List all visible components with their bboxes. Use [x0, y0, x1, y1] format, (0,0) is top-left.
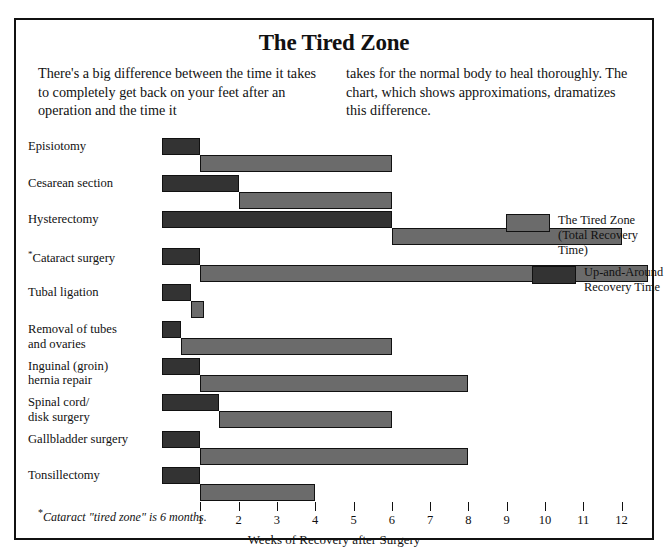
legend-label-line2: Recovery Time [584, 280, 660, 294]
row-label-line1: Cesarean section [28, 176, 113, 190]
legend-label-line1: Up-and-Around [584, 265, 663, 279]
axis-tick-label: 10 [533, 513, 557, 528]
row-label-line1: Gallbladder surgery [28, 432, 128, 446]
axis-tick-label: 9 [495, 513, 519, 528]
axis-tick [430, 502, 431, 511]
row-label: Hysterectomy [28, 212, 160, 227]
row-label: *Cataract surgery [28, 249, 160, 266]
axis-tick [507, 502, 508, 511]
axis-tick [545, 502, 546, 511]
axis-tick-label: 12 [610, 513, 634, 528]
intro-column-left: There's a big difference between the tim… [38, 64, 330, 120]
bar-up-and-around [162, 211, 392, 228]
axis-tick-label: 5 [342, 513, 366, 528]
row-label: Episiotomy [28, 139, 160, 154]
bar-tired-zone [200, 155, 392, 172]
bar-chart-plot: EpisiotomyCesarean sectionHysterectomy*C… [16, 130, 652, 500]
axis-tick [392, 502, 393, 511]
legend-label-line1: The Tired Zone [558, 213, 635, 227]
axis-tick [622, 502, 623, 511]
axis-tick-label: 11 [571, 513, 595, 528]
bar-up-and-around [162, 467, 200, 484]
bar-up-and-around [162, 358, 200, 375]
row-label: Cesarean section [28, 176, 160, 191]
axis-tick [354, 502, 355, 511]
bar-up-and-around [162, 394, 219, 411]
bar-tired-zone [219, 411, 391, 428]
row-label-line2: hernia repair [28, 373, 92, 387]
axis-tick-label: 7 [418, 513, 442, 528]
page-title: The Tired Zone [16, 30, 652, 56]
row-label: Tonsillectomy [28, 468, 160, 483]
row-label: Spinal cord/disk surgery [28, 395, 160, 425]
x-axis-title: Weeks of Recovery after Surgery [16, 532, 652, 548]
axis-tick [239, 502, 240, 511]
row-label-line1: Spinal cord/ [28, 395, 89, 409]
axis-tick [277, 502, 278, 511]
legend-item-up-and-around: Up-and-AroundRecovery Time [532, 265, 663, 295]
row-label-line1: Inguinal (groin) [28, 359, 108, 373]
axis-tick-label: 2 [227, 513, 251, 528]
bar-up-and-around [162, 284, 191, 301]
axis-tick [468, 502, 469, 511]
bar-tired-zone [239, 192, 392, 209]
row-label-line2: disk surgery [28, 410, 90, 424]
legend-label-line2: (Total Recovery Time) [558, 228, 638, 257]
row-label-line1: Hysterectomy [28, 212, 99, 226]
row-label-line2: and ovaries [28, 337, 86, 351]
bar-up-and-around [162, 138, 200, 155]
footnote-text: Cataract "tired zone" is 6 months. [43, 510, 207, 524]
row-label: Inguinal (groin)hernia repair [28, 359, 160, 389]
row-label-line1: Episiotomy [28, 139, 86, 153]
row-label-line1: Removal of tubes [28, 322, 117, 336]
bar-up-and-around [162, 175, 239, 192]
bar-tired-zone [181, 338, 392, 355]
bar-tired-zone [200, 375, 468, 392]
row-label: Tubal ligation [28, 285, 160, 300]
row-label: Gallbladder surgery [28, 432, 160, 447]
row-label-line1: Cataract surgery [33, 251, 116, 265]
axis-tick-label: 3 [265, 513, 289, 528]
axis-tick [583, 502, 584, 511]
intro-text: There's a big difference between the tim… [38, 64, 638, 120]
bar-up-and-around [162, 321, 181, 338]
legend-swatch-tired-zone [506, 214, 550, 232]
axis-tick-label: 8 [456, 513, 480, 528]
legend-swatch-up-and-around [532, 266, 576, 284]
row-label-line1: Tubal ligation [28, 285, 99, 299]
intro-column-right: takes for the normal body to heal thorou… [346, 64, 638, 120]
axis-tick-label: 4 [303, 513, 327, 528]
legend-label-tired-zone: The Tired Zone(Total Recovery Time) [558, 213, 666, 258]
chart-frame: The Tired Zone There's a big difference … [14, 18, 654, 540]
row-label: Removal of tubesand ovaries [28, 322, 160, 352]
axis-tick-label: 6 [380, 513, 404, 528]
bar-tired-zone [200, 448, 468, 465]
bar-tired-zone [200, 484, 315, 501]
bar-up-and-around [162, 431, 200, 448]
legend-item-tired-zone: The Tired Zone(Total Recovery Time) [506, 213, 666, 258]
row-label-line1: Tonsillectomy [28, 468, 100, 482]
legend-label-up-and-around: Up-and-AroundRecovery Time [584, 265, 663, 295]
axis-tick [315, 502, 316, 511]
footnote: *Cataract "tired zone" is 6 months. [38, 507, 208, 525]
bar-up-and-around [162, 248, 200, 265]
bar-tired-zone [191, 301, 204, 318]
